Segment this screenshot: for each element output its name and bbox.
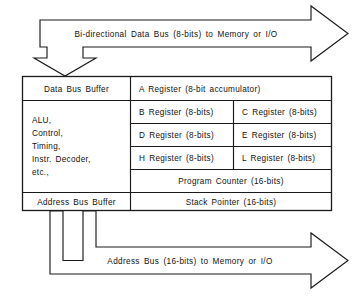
register-a-label: A Register (8-bit accumulator) (139, 85, 261, 94)
alu-line-4: etc., (32, 168, 49, 177)
register-h-label: H Register (8-bits) (139, 154, 214, 163)
top-bus-arrow-shape (34, 6, 348, 76)
cpu-box-outline (23, 77, 332, 211)
alu-line-0: ALU, (32, 116, 51, 125)
register-d-label: D Register (8-bits) (139, 131, 214, 140)
stack-pointer-label: Stack Pointer (16-bits) (186, 198, 277, 207)
top-bus-label: Bi-directional Data Bus (8-bits) to Memo… (74, 30, 277, 39)
bottom-address-bus-arrow: Address Bus (16-bits) to Memory or I/O (50, 211, 348, 288)
cpu-box: Data Bus Buffer ALU, Control, Timing, In… (23, 77, 332, 211)
bottom-bus-label: Address Bus (16-bits) to Memory or I/O (107, 257, 272, 266)
address-bus-buffer-label: Address Bus Buffer (37, 198, 116, 207)
diagram-page: Bi-directional Data Bus (8-bits) to Memo… (0, 0, 354, 301)
data-bus-buffer-label: Data Bus Buffer (44, 85, 109, 94)
top-data-bus-arrow: Bi-directional Data Bus (8-bits) to Memo… (34, 6, 348, 76)
bottom-bus-arrow-shape (50, 211, 348, 288)
register-c-label: C Register (8-bits) (242, 108, 317, 117)
register-b-label: B Register (8-bits) (139, 108, 213, 117)
register-l-label: L Register (8-bits) (242, 154, 315, 163)
register-e-label: E Register (8-bits) (242, 131, 316, 140)
alu-line-3: Instr. Decoder, (32, 155, 91, 164)
alu-line-1: Control, (32, 129, 63, 138)
program-counter-label: Program Counter (16-bits) (178, 177, 283, 186)
alu-line-2: Timing, (32, 142, 61, 151)
cpu-block-diagram: Bi-directional Data Bus (8-bits) to Memo… (0, 0, 354, 301)
